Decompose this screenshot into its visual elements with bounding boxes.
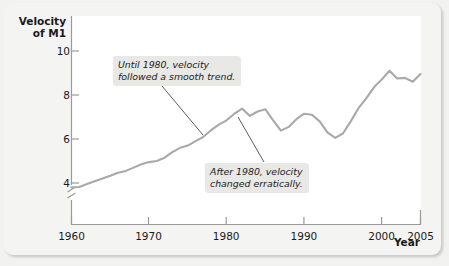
xtick-label-1980: 1980: [206, 230, 246, 242]
y-axis-ticks: [71, 51, 79, 183]
xtick-label-1970: 1970: [129, 230, 169, 242]
ytick-label-8: 8: [44, 89, 70, 101]
ytick-label-4: 4: [44, 177, 70, 189]
figure-container: Velocity of M1 Year: [0, 0, 449, 266]
xtick-label-2000: 2000: [362, 230, 402, 242]
xtick-label-1960: 1960: [52, 230, 92, 242]
xtick-label-1990: 1990: [284, 230, 324, 242]
annotation-smooth-trend: Until 1980, velocity followed a smooth t…: [113, 56, 240, 85]
ytick-label-10: 10: [44, 45, 70, 57]
ytick-label-6: 6: [44, 133, 70, 145]
x-axis-ticks: [72, 217, 421, 225]
annotation-erratic-change: After 1980, velocity changed erratically…: [205, 163, 308, 192]
xtick-label-2005: 2005: [401, 230, 441, 242]
annotation-leader-lines: [162, 86, 264, 162]
axis-lines: [68, 16, 422, 225]
